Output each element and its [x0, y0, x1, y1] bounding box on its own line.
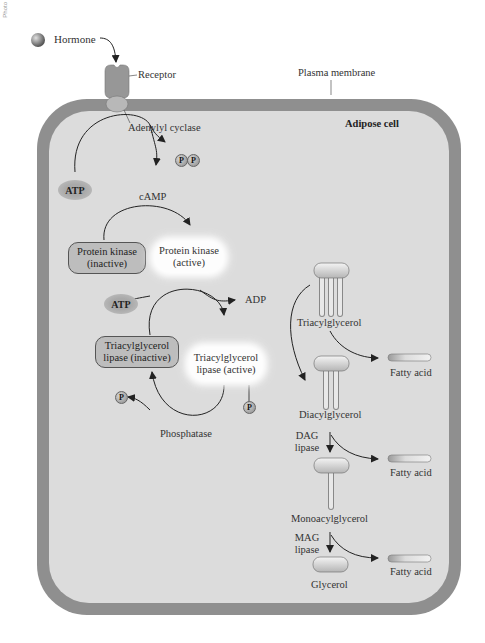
triacylglycerol-molecule	[314, 263, 349, 314]
fatty-acid-3	[388, 555, 431, 562]
atp-molecule: ATP	[104, 294, 138, 314]
cell-title: Adipose cell	[345, 118, 399, 130]
phosphate-released-icon: P	[115, 391, 128, 404]
tag-lipase-active: Triacylglycerol lipase (active)	[190, 348, 262, 380]
glycerol-molecule	[313, 557, 348, 572]
diacylglycerol-label: Diacylglycerol	[299, 409, 361, 421]
pathway-arrows	[0, 0, 485, 643]
hormone-label: Hormone	[54, 33, 96, 45]
protein-kinase-inactive: Protein kinase (inactive)	[68, 242, 146, 274]
camp-label: cAMP	[139, 191, 166, 203]
phosphatase-label: Phosphatase	[160, 428, 212, 440]
fatty-acid-2	[388, 455, 431, 462]
protein-kinase-active: Protein kinase (active)	[155, 242, 223, 272]
phosphate-icon: P	[187, 154, 200, 167]
adenylyl-cyclase-label: Adenylyl cyclase	[128, 122, 201, 134]
phosphate-attached-icon: P	[243, 401, 256, 414]
monoacylglycerol-label: Monoacylglycerol	[291, 513, 368, 525]
fatty-acid-1	[388, 354, 431, 361]
plasma-membrane-label: Plasma membrane	[298, 67, 375, 79]
fatty-acid-label-3: Fatty acid	[390, 566, 432, 578]
receptor-icon	[105, 65, 129, 98]
adenylyl-cyclase-icon	[106, 96, 128, 112]
mag-lipase-label: MAG lipase	[293, 532, 321, 556]
fatty-acid-label-1: Fatty acid	[390, 367, 432, 379]
atp-molecule: ATP	[58, 180, 92, 200]
fatty-acid-label-2: Fatty acid	[390, 467, 432, 479]
dag-lipase-label: DAG lipase	[293, 430, 321, 454]
diacylglycerol-molecule	[314, 356, 349, 407]
tag-lipase-inactive: Triacylglycerol lipase (inactive)	[95, 336, 179, 368]
receptor-label: Receptor	[138, 69, 176, 81]
glycerol-label: Glycerol	[311, 579, 348, 591]
triacylglycerol-label: Triacylglycerol	[297, 317, 361, 329]
monoacylglycerol-molecule	[314, 458, 349, 507]
adp-label: ADP	[245, 294, 266, 306]
hormone-icon	[31, 33, 45, 47]
